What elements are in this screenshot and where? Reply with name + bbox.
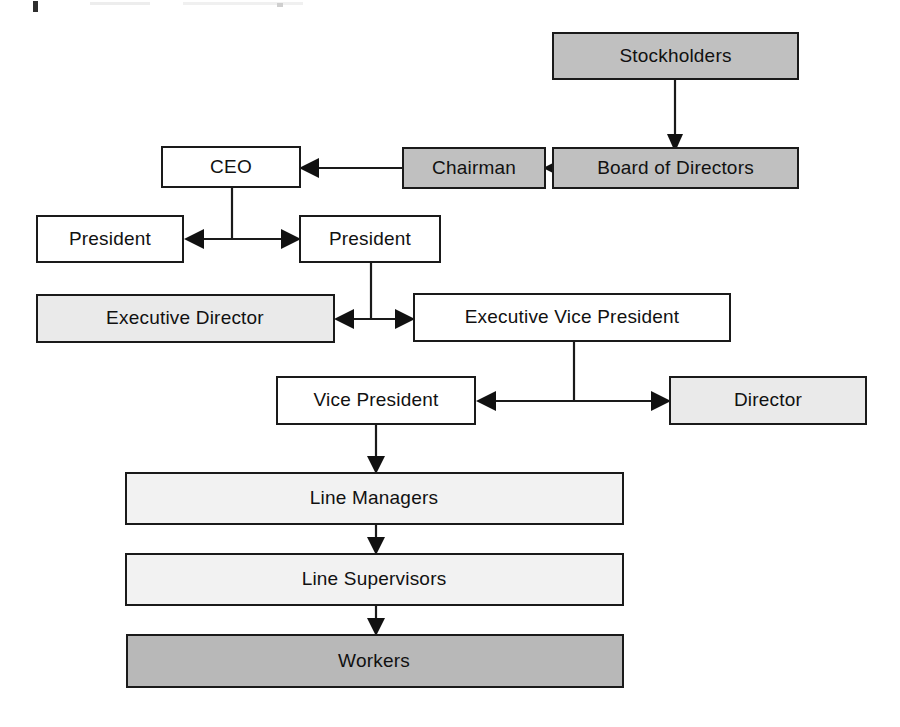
connector-vp-to-line-managers (367, 424, 385, 474)
node-director[interactable]: Director (670, 377, 866, 424)
node-label-executive-vice-president: Executive Vice President (465, 306, 680, 327)
node-label-executive-director: Executive Director (106, 307, 264, 328)
node-label-line-supervisors: Line Supervisors (302, 568, 447, 589)
node-label-vice-president: Vice President (314, 389, 439, 410)
connector-chairman-to-ceo (299, 158, 403, 178)
connector-supervisors-to-workers (367, 605, 385, 636)
connector-stockholders-to-board (667, 79, 683, 152)
node-label-chairman: Chairman (432, 157, 516, 178)
node-label-president-right: President (329, 228, 412, 249)
node-label-director: Director (734, 389, 803, 410)
connector-president-to-executives (334, 262, 415, 329)
node-label-workers: Workers (338, 650, 410, 671)
node-label-ceo: CEO (210, 156, 252, 177)
node-board-of-directors[interactable]: Board of Directors (553, 148, 798, 188)
connector-ceo-to-presidents (184, 187, 301, 249)
node-president-right[interactable]: President (300, 216, 440, 262)
node-line-managers[interactable]: Line Managers (126, 473, 623, 524)
node-president-left[interactable]: President (37, 216, 183, 262)
node-label-line-managers: Line Managers (310, 487, 438, 508)
node-stockholders[interactable]: Stockholders (553, 33, 798, 79)
node-label-president-left: President (69, 228, 152, 249)
node-line-supervisors[interactable]: Line Supervisors (126, 554, 623, 605)
node-label-stockholders: Stockholders (619, 45, 731, 66)
connector-evp-to-vp-and-director (476, 341, 671, 411)
node-chairman[interactable]: Chairman (403, 148, 545, 188)
node-workers[interactable]: Workers (127, 635, 623, 687)
org-chart-container: Stockholders Board of Directors Chairman… (0, 0, 900, 727)
node-executive-vice-president[interactable]: Executive Vice President (414, 294, 730, 341)
node-ceo[interactable]: CEO (162, 147, 300, 187)
node-vice-president[interactable]: Vice President (277, 377, 475, 424)
node-executive-director[interactable]: Executive Director (37, 295, 334, 342)
org-chart-canvas: Stockholders Board of Directors Chairman… (0, 0, 900, 727)
node-label-board-of-directors: Board of Directors (597, 157, 754, 178)
connector-managers-to-supervisors (367, 524, 385, 555)
